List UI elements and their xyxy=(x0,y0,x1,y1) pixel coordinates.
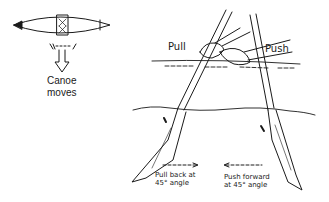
push-label: Push xyxy=(265,44,289,54)
canoe-caption-line2: moves xyxy=(47,88,76,98)
push-paddle-icon xyxy=(250,14,302,190)
pull-note-line1: Pull back at xyxy=(155,172,196,179)
canoe-top-view-icon xyxy=(14,15,110,72)
canoe-caption-line1: Canoe xyxy=(47,76,76,86)
direction-arrows-icon xyxy=(163,163,262,167)
pull-paddle-icon xyxy=(132,10,232,182)
push-note-line1: Push forward xyxy=(224,174,270,181)
push-note-line2: at 45° angle xyxy=(224,182,267,189)
pull-note-line2: 45° angle xyxy=(155,180,189,187)
water-surface-icon xyxy=(133,60,315,115)
pull-label: Pull xyxy=(168,42,186,52)
canoe-paddling-diagram: Canoe moves Pull Push Pull back at 45° a… xyxy=(0,0,329,202)
